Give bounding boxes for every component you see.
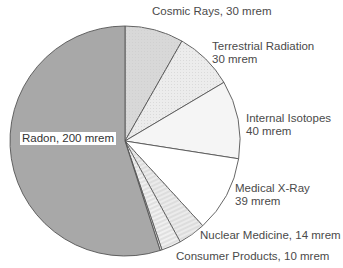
- label-nuclear-medicine: Nuclear Medicine, 14 mrem: [200, 229, 341, 242]
- label-text: Terrestrial Radiation: [212, 40, 314, 53]
- label-value: 40 mrem: [246, 125, 331, 138]
- label-text: Cosmic Rays, 30 mrem: [152, 5, 272, 18]
- label-value: 39 mrem: [235, 195, 310, 208]
- label-value: 30 mrem: [212, 53, 314, 66]
- label-cosmic-rays: Cosmic Rays, 30 mrem: [152, 5, 272, 18]
- label-text: Radon, 200 mrem: [22, 132, 114, 145]
- label-text: Nuclear Medicine, 14 mrem: [200, 229, 341, 242]
- label-consumer-products: Consumer Products, 10 mrem: [176, 250, 329, 263]
- label-internal-isotopes: Internal Isotopes 40 mrem: [246, 112, 331, 138]
- label-terrestrial-radiation: Terrestrial Radiation 30 mrem: [212, 40, 314, 66]
- label-text: Medical X-Ray: [235, 182, 310, 195]
- label-medical-x-ray: Medical X-Ray 39 mrem: [235, 182, 310, 208]
- label-text: Internal Isotopes: [246, 112, 331, 125]
- label-text: Consumer Products, 10 mrem: [176, 250, 329, 263]
- label-radon: Radon, 200 mrem: [20, 132, 116, 145]
